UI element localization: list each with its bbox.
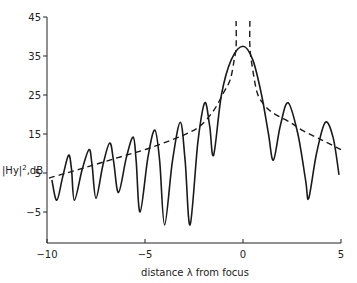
- y-tick-label: 35: [28, 51, 41, 62]
- y-axis: 453525155−5: [26, 12, 47, 243]
- x-tick-label: 0: [240, 249, 246, 260]
- y-axis-label: |Hy|2,dB: [2, 164, 43, 177]
- dashed-curve: [250, 21, 341, 150]
- x-tick-label: −10: [36, 249, 57, 260]
- chart: 453525155−5 −10−505 distance λ from focu…: [0, 0, 357, 283]
- y-tick-label: 25: [28, 90, 41, 101]
- dashed-curve: [49, 21, 236, 178]
- solid-curve: [52, 46, 339, 225]
- y-tick-label: 45: [28, 12, 41, 23]
- plot-series: [49, 21, 341, 225]
- x-axis-label: distance λ from focus: [141, 267, 249, 278]
- y-tick-label: 15: [28, 129, 41, 140]
- x-axis: −10−505: [36, 239, 344, 260]
- x-tick-label: −5: [138, 249, 153, 260]
- x-tick-label: 5: [338, 249, 344, 260]
- y-tick-label: −5: [26, 207, 41, 218]
